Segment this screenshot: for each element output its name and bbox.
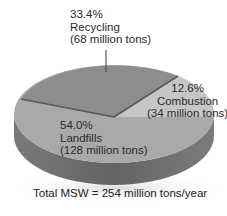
recycling-name: Recycling	[70, 21, 151, 34]
combustion-amount: (34 million tons)	[147, 107, 227, 120]
recycling-amount: (68 million tons)	[70, 33, 151, 46]
landfills-percent: 54.0%	[60, 119, 148, 132]
chart-caption: Total MSW = 254 million tons/year	[33, 187, 207, 199]
combustion-percent: 12.6%	[147, 82, 227, 95]
recycling-percent: 33.4%	[70, 8, 151, 21]
label-landfills: 54.0% Landfills (128 million tons)	[60, 119, 148, 157]
landfills-amount: (128 million tons)	[60, 144, 148, 157]
label-recycling: 33.4% Recycling (68 million tons)	[70, 8, 151, 46]
combustion-name: Combustion	[147, 95, 227, 108]
label-combustion: 12.6% Combustion (34 million tons)	[147, 82, 227, 120]
landfills-name: Landfills	[60, 132, 148, 145]
